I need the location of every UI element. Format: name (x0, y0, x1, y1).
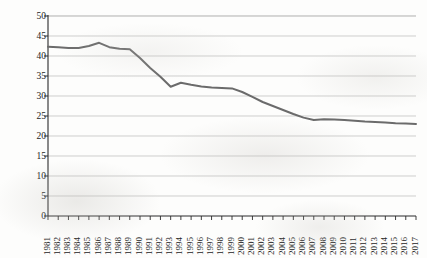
x-axis-tick-label: 2001 (247, 237, 256, 255)
x-axis-tick-label: 1983 (63, 237, 72, 255)
x-axis-tick-label: 1995 (186, 237, 195, 255)
x-axis-tick-label: 1984 (73, 237, 82, 255)
x-axis-tick-label: 1999 (227, 237, 236, 255)
x-axis-tick-label: 1986 (94, 237, 103, 255)
x-axis-tick-label: 2003 (267, 237, 276, 255)
x-axis-tick-label: 2016 (400, 237, 409, 255)
x-axis-tick-label: 1985 (83, 237, 92, 255)
x-axis-tick-label: 2017 (411, 237, 420, 255)
x-axis-tick-label: 2014 (380, 237, 389, 255)
x-axis-tick-label: 1997 (206, 237, 215, 255)
x-axis-tick-label: 2006 (298, 237, 307, 255)
chart-page: Average corproate tax rate 0510152025303… (0, 0, 427, 258)
x-axis-tick-label: 1991 (145, 237, 154, 255)
x-axis-tick-label: 1990 (135, 237, 144, 255)
x-axis-tick-label: 1992 (155, 237, 164, 255)
x-axis-tick-label: 2010 (339, 237, 348, 255)
x-axis-tick-label: 2000 (237, 237, 246, 255)
x-axis-tick-label: 1993 (165, 237, 174, 255)
x-axis-tick-label: 1987 (104, 237, 113, 255)
x-axis-tick-label: 2008 (319, 237, 328, 255)
x-axis-tick-labels: 1981198219831984198519861987198819891990… (0, 0, 427, 258)
x-axis-tick-label: 1989 (124, 237, 133, 255)
x-axis-tick-label: 2015 (390, 237, 399, 255)
x-axis-tick-label: 1998 (216, 237, 225, 255)
x-axis-tick-label: 2012 (359, 237, 368, 255)
x-axis-tick-label: 2005 (288, 237, 297, 255)
x-axis-tick-label: 2004 (278, 237, 287, 255)
x-axis-tick-label: 2013 (370, 237, 379, 255)
x-axis-tick-label: 2007 (308, 237, 317, 255)
x-axis-tick-label: 1982 (53, 237, 62, 255)
x-axis-tick-label: 2009 (329, 237, 338, 255)
x-axis-tick-label: 1981 (43, 237, 52, 255)
x-axis-tick-label: 1988 (114, 237, 123, 255)
x-axis-tick-label: 2002 (257, 237, 266, 255)
line-chart: Average corproate tax rate 0510152025303… (0, 0, 427, 258)
x-axis-tick-label: 1996 (196, 237, 205, 255)
x-axis-tick-label: 2011 (349, 237, 358, 255)
x-axis-tick-label: 1994 (175, 237, 184, 255)
